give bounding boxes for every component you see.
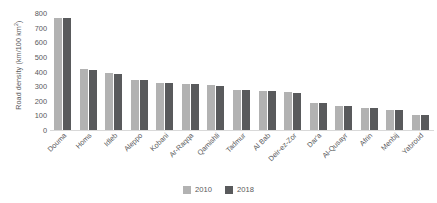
bar-group (76, 13, 102, 130)
bar-2010[interactable] (259, 91, 267, 130)
x-axis-tick-label: Aleppo (123, 131, 145, 153)
bar-2018[interactable] (293, 93, 301, 130)
x-axis-tick-label: Menbij (379, 131, 400, 152)
y-axis-tick-label: 700 (18, 23, 47, 32)
bar-group (254, 13, 280, 130)
x-axis-tick-label: Douma (45, 131, 68, 154)
bar-2010[interactable] (207, 85, 215, 130)
bar-2010[interactable] (54, 18, 62, 130)
bar-group (331, 13, 357, 130)
y-axis-tick-label: 200 (18, 96, 47, 105)
bar-2018[interactable] (395, 110, 403, 130)
bar-2010[interactable] (386, 110, 394, 130)
bar-group (305, 13, 331, 130)
legend-label-2010: 2010 (195, 185, 212, 194)
bar-group (101, 13, 127, 130)
y-axis-tick-label: 300 (18, 82, 47, 91)
x-axis-tick-label: Tadmur (224, 131, 247, 154)
bar-2010[interactable] (156, 83, 164, 130)
legend-swatch-icon-2018 (225, 186, 233, 194)
bar-2010[interactable] (310, 103, 318, 130)
chart-legend: 2010 2018 (0, 185, 437, 194)
x-axis-tick-label: Idleb (102, 131, 119, 148)
y-axis-tick-label: 500 (18, 52, 47, 61)
bar-2018[interactable] (268, 91, 276, 130)
bar-2010[interactable] (105, 73, 113, 130)
x-axis-tick-label: Qamishli (195, 131, 221, 157)
legend-item-2018[interactable]: 2018 (225, 185, 254, 194)
bar-2018[interactable] (319, 103, 327, 130)
bar-2010[interactable] (361, 108, 369, 130)
bar-group (382, 13, 408, 130)
bar-2010[interactable] (182, 84, 190, 130)
y-axis-tick-label: 800 (18, 9, 47, 18)
x-axis-tick-label: Dar'a (305, 131, 323, 149)
y-axis-tick-label: 100 (18, 111, 47, 120)
bar-group (356, 13, 382, 130)
bar-group (407, 13, 433, 130)
bar-group (127, 13, 153, 130)
bar-group (178, 13, 204, 130)
bar-group (203, 13, 229, 130)
plot-area (50, 13, 433, 130)
y-axis-tick-label: 600 (18, 38, 47, 47)
bar-2010[interactable] (412, 115, 420, 130)
y-axis-tick-label: 0 (18, 126, 47, 135)
bar-2018[interactable] (89, 70, 97, 130)
legend-label-2018: 2018 (237, 185, 254, 194)
y-axis-tick-label: 400 (18, 67, 47, 76)
bar-2018[interactable] (370, 108, 378, 130)
bar-2018[interactable] (242, 90, 250, 130)
bar-2010[interactable] (335, 106, 343, 130)
x-axis-tick-label: Yabroud (400, 131, 425, 156)
bar-2018[interactable] (63, 18, 71, 130)
x-axis-tick-label: Al-Qusayr (320, 131, 349, 160)
bar-2018[interactable] (114, 74, 122, 130)
bar-2010[interactable] (233, 90, 241, 130)
bar-2018[interactable] (421, 115, 429, 131)
bar-2010[interactable] (284, 92, 292, 130)
x-axis-tick-label: Al Bab (251, 131, 272, 152)
bar-group (280, 13, 306, 130)
bar-2018[interactable] (165, 83, 173, 130)
bar-2018[interactable] (344, 106, 352, 130)
bar-2018[interactable] (216, 86, 224, 130)
legend-item-2010[interactable]: 2010 (183, 185, 212, 194)
bar-2018[interactable] (140, 80, 148, 130)
bar-chart: Road density (km/100 km2) 80070060050040… (0, 0, 437, 203)
bar-2010[interactable] (80, 69, 88, 130)
y-axis-ticks: 8007006005004003002001000 (18, 13, 47, 130)
legend-swatch-icon-2010 (183, 186, 191, 194)
bar-group (50, 13, 76, 130)
x-axis-tick-label: Homs (74, 131, 94, 151)
bar-2018[interactable] (191, 84, 199, 130)
bar-group (229, 13, 255, 130)
x-axis-labels: DoumaHomsIdlebAleppoKobaniAr-RaqqaQamish… (50, 131, 433, 183)
x-axis-tick-label: Kobani (148, 131, 170, 153)
bar-group (152, 13, 178, 130)
x-axis-tick-label: Ar-Raqqa (168, 131, 196, 159)
bar-2010[interactable] (131, 80, 139, 130)
x-axis-tick-label: Afrin (358, 131, 375, 148)
